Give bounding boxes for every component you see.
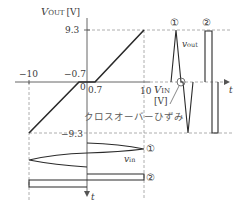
figure-canvas: VOUT[V] 9.3 −9.3 −10 −0.7 0 0.7 10 VIN [… xyxy=(0,0,242,209)
vout-axis-label: VOUT[V] xyxy=(41,6,80,17)
tick-label-10: 10 xyxy=(140,86,152,96)
marker-1-vout: ① xyxy=(170,17,179,28)
vin-axis-label: VIN xyxy=(154,84,170,95)
crossover-distortion-figure: VOUT[V] 9.3 −9.3 −10 −0.7 0 0.7 10 VIN [… xyxy=(0,0,242,209)
tick-label-9.3: 9.3 xyxy=(65,25,80,35)
time-arrow-down-icon xyxy=(84,191,90,197)
tick-label-zero: 0 xyxy=(80,82,86,92)
tick-label-neg-9.3: −9.3 xyxy=(61,129,83,139)
vin-label: vin xyxy=(124,154,135,164)
tick-label-neg-10: −10 xyxy=(19,69,38,79)
tick-label-neg-0.7: −0.7 xyxy=(64,69,86,79)
tick-label-0.7: 0.7 xyxy=(88,85,103,95)
crossover-leader xyxy=(170,86,179,104)
time-label-right: t xyxy=(229,85,233,95)
vin-waveform-2-neg xyxy=(29,180,87,187)
vout-label: vout xyxy=(182,39,198,49)
crossover-distortion-label: クロスオーバーひずみ xyxy=(84,111,184,122)
marker-1-vin: ① xyxy=(146,143,155,154)
marker-2-vout: ② xyxy=(202,17,211,28)
vin-axis-unit: [V] xyxy=(154,96,168,106)
time-label-down: t xyxy=(91,192,95,202)
vin-waveform-2-pos xyxy=(87,174,144,180)
marker-2-vin: ② xyxy=(146,172,155,183)
